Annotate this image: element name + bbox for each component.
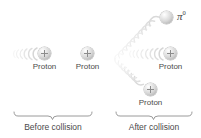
braces-layer [0, 0, 201, 138]
physics-diagram: Proton Proton π0 Proton Proton Before co… [0, 0, 201, 138]
brace-before-path [14, 112, 92, 120]
group-label-before-collision: Before collision [10, 122, 96, 132]
brace-after-path [116, 112, 192, 120]
group-label-after-collision: After collision [112, 122, 196, 132]
